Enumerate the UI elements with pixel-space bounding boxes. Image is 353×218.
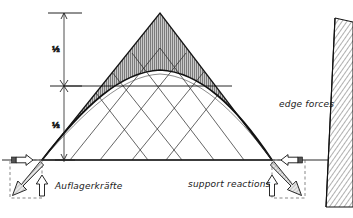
dimension-axis: ½ ½ [48, 13, 82, 162]
left-vertical-reaction-arrow [36, 175, 47, 196]
left-support-forces: Auflagerkräfte [10, 155, 123, 198]
right-resultant-reaction-arrow [270, 162, 301, 196]
dimension-label-lower: ½ [52, 121, 60, 130]
edge-forces-label: edge forces [279, 99, 334, 109]
left-horizontal-reaction-arrow [12, 155, 34, 166]
right-horizontal-reaction-arrow [281, 155, 303, 166]
edge-forces-wedge [326, 18, 353, 207]
support-forces-label-de: Auflagerkräfte [54, 181, 123, 191]
diagram-canvas: ½ ½ Auflagerkräfte [0, 0, 353, 218]
support-forces-label-en: support reactions [188, 179, 271, 189]
right-support-forces: support reactions [188, 155, 305, 198]
parabolic-arch [42, 70, 272, 160]
left-resultant-reaction-arrow [13, 162, 44, 196]
structural-diagram: ½ ½ Auflagerkräfte [0, 0, 353, 218]
dimension-label-upper: ½ [52, 45, 60, 54]
